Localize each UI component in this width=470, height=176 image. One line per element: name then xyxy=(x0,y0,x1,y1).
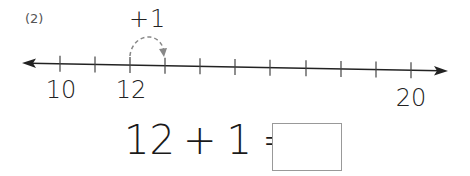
operand-b: 1 xyxy=(226,117,251,163)
tick-marks xyxy=(60,56,411,78)
plus-operator: + xyxy=(183,117,217,163)
jump-arrowhead-icon xyxy=(159,48,167,57)
tick-label-10: 10 xyxy=(46,76,77,104)
tick-label-20: 20 xyxy=(396,84,427,112)
operand-a: 12 xyxy=(124,117,175,163)
number-line-problem: (2) +1 101220 12 + 1 = xyxy=(0,0,470,176)
answer-box[interactable] xyxy=(272,123,342,171)
tick-label-12: 12 xyxy=(116,76,147,104)
jump-arc xyxy=(130,37,164,63)
